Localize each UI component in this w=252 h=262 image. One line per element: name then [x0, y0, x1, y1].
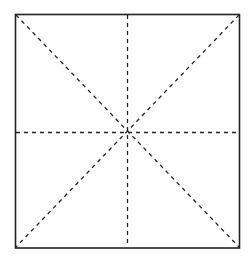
rice-grid-diagram: [0, 0, 252, 262]
